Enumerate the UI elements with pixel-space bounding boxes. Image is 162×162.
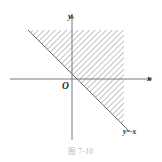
coordinate-plot bbox=[0, 0, 162, 146]
line-equation-label: y=-x bbox=[123, 128, 136, 136]
x-axis-label: x bbox=[147, 74, 152, 83]
figure-caption: 图 7-10 bbox=[0, 148, 162, 156]
origin-label: O bbox=[62, 82, 69, 92]
y-axis-label: y bbox=[68, 12, 72, 21]
plot-area bbox=[0, 0, 162, 146]
figure-container: y x O y=-x 图 7-10 bbox=[0, 0, 162, 162]
